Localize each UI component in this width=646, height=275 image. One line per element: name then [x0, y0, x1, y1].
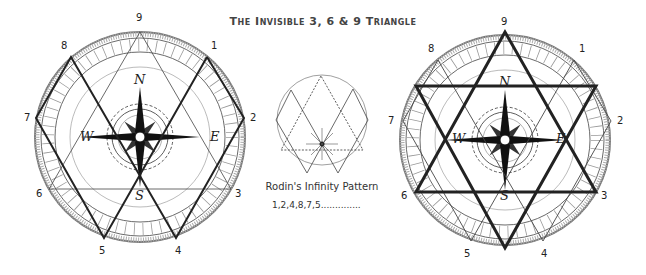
- number-5: 5: [464, 248, 470, 259]
- number-3: 3: [601, 190, 607, 201]
- east-label: E: [209, 129, 220, 144]
- right-compass: N E S W 9 1 2 3 4 5 6 7 8: [388, 16, 623, 259]
- number-9: 9: [501, 16, 507, 27]
- number-6: 6: [36, 188, 42, 199]
- west-label: W: [452, 131, 467, 146]
- south-label: S: [135, 188, 144, 203]
- number-2: 2: [250, 112, 256, 123]
- number-4: 4: [175, 245, 181, 256]
- number-1: 1: [579, 43, 585, 54]
- diagram-canvas: N E S W 9 1 2 3 4 5 6 7 8 N E S W: [0, 0, 646, 275]
- number-4: 4: [541, 248, 547, 259]
- rodin-diagram: [276, 75, 368, 173]
- north-label: N: [498, 74, 511, 89]
- east-label: E: [555, 131, 566, 146]
- number-2: 2: [617, 115, 623, 126]
- number-1: 1: [211, 40, 217, 51]
- number-9: 9: [136, 12, 142, 23]
- number-7: 7: [24, 112, 30, 123]
- number-3: 3: [235, 188, 241, 199]
- rodin-sequence: 1,2,4,8,7,5..............: [272, 200, 361, 210]
- rodin-caption: Rodin's Infinity Pattern: [262, 181, 382, 192]
- number-6: 6: [401, 190, 407, 201]
- south-label: S: [500, 188, 509, 203]
- number-8: 8: [61, 40, 67, 51]
- west-label: W: [80, 129, 95, 144]
- left-compass: N E S W 9 1 2 3 4 5 6 7 8: [24, 12, 256, 256]
- number-8: 8: [428, 43, 434, 54]
- north-label: N: [133, 72, 146, 87]
- number-7: 7: [388, 115, 394, 126]
- number-5: 5: [99, 245, 105, 256]
